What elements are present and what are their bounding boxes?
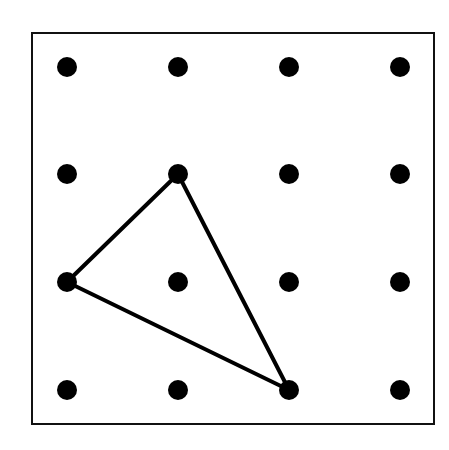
grid-dot-r0-c1 (168, 57, 188, 77)
grid-dot-r2-c1 (168, 272, 188, 292)
grid-dot-r0-c3 (390, 57, 410, 77)
grid-dot-r2-c3 (390, 272, 410, 292)
grid-dot-r2-c2 (279, 272, 299, 292)
grid-dot-r1-c2 (279, 164, 299, 184)
grid-dot-r3-c1 (168, 380, 188, 400)
grid-dot-r0-c2 (279, 57, 299, 77)
geoboard-diagram (0, 0, 449, 450)
grid-dot-r0-c0 (57, 57, 77, 77)
grid-frame (32, 33, 434, 424)
grid-dot-r1-c0 (57, 164, 77, 184)
grid-dot-r3-c0 (57, 380, 77, 400)
grid-dot-r3-c3 (390, 380, 410, 400)
dot-grid (57, 57, 410, 400)
grid-dot-r1-c3 (390, 164, 410, 184)
